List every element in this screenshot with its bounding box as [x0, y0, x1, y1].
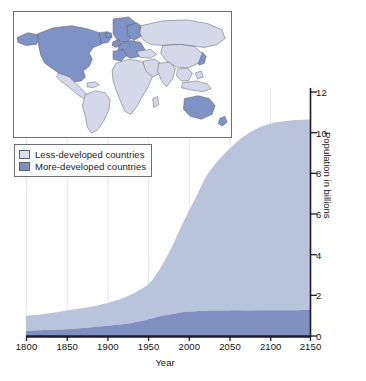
x-tick-2150: 2150 — [300, 341, 322, 352]
x-tick-1850: 1850 — [56, 341, 78, 352]
x-tick-2050: 2050 — [219, 341, 241, 352]
world-map-inset — [13, 11, 232, 138]
world-map-svg — [14, 12, 231, 137]
y-tick-4: 4 — [316, 249, 321, 260]
y-tick-6: 6 — [316, 209, 321, 220]
x-tick-1900: 1900 — [97, 341, 119, 352]
y-tick-2: 2 — [316, 290, 321, 301]
legend-label-more-developed: More-developed countries — [35, 162, 146, 172]
x-tick-1800: 1800 — [16, 341, 38, 352]
legend-item-less-developed[interactable]: Less-developed countries — [19, 149, 146, 160]
y-tick-8: 8 — [316, 168, 321, 179]
legend-label-less-developed: Less-developed countries — [35, 150, 144, 160]
x-tick-1950: 1950 — [138, 341, 160, 352]
y-tick-0: 0 — [316, 331, 321, 342]
x-axis-title: Year — [0, 357, 330, 368]
legend-swatch-more-developed — [19, 162, 30, 171]
legend-item-more-developed[interactable]: More-developed countries — [19, 161, 146, 172]
legend-swatch-less-developed — [19, 150, 30, 159]
y-axis-title: Population in billions — [322, 132, 333, 219]
chart-legend: Less-developed countries More-developed … — [14, 144, 152, 177]
population-growth-figure: Less-developed countries More-developed … — [0, 0, 366, 381]
x-tick-2100: 2100 — [260, 341, 282, 352]
y-tick-12: 12 — [316, 87, 327, 98]
x-tick-2000: 2000 — [179, 341, 201, 352]
